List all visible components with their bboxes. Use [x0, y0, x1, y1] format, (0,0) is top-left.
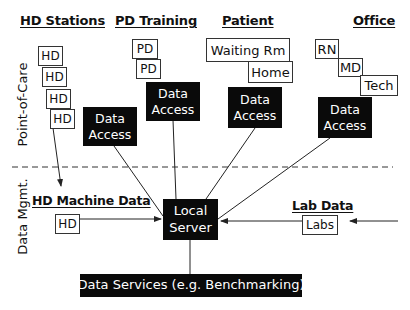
section-label-point-of-care: Point-of-Care [15, 60, 30, 150]
section-label-data-mgmt: Data Mgmt. [15, 178, 30, 256]
lab-data-title: Lab Data [292, 198, 353, 213]
header-pd-training: PD Training [115, 13, 197, 28]
data-access-pd[interactable]: Data Access [146, 82, 200, 121]
header-office: Office [353, 13, 395, 28]
header-patient: Patient [222, 13, 274, 28]
hd-machine-data-box[interactable]: HD [55, 214, 80, 234]
office-tech-box[interactable]: Tech [360, 75, 398, 96]
office-rn-box[interactable]: RN [315, 39, 339, 59]
data-access-office[interactable]: Data Access [318, 97, 372, 138]
data-access-hd[interactable]: Data Access [83, 107, 137, 146]
data-services-box[interactable]: Data Services (e.g. Benchmarking) [80, 274, 302, 297]
local-server-box[interactable]: Local Server [163, 199, 218, 240]
pd-training-box[interactable]: PD [132, 39, 158, 59]
header-hd-stations: HD Stations [20, 13, 105, 28]
hd-station-box[interactable]: HD [46, 89, 71, 109]
pd-training-box[interactable]: PD [136, 59, 161, 79]
data-access-patient[interactable]: Data Access [228, 87, 282, 128]
hd-station-box[interactable]: HD [38, 46, 63, 66]
patient-waiting-room-box[interactable]: Waiting Rm [206, 38, 290, 62]
hd-station-box[interactable]: HD [42, 67, 67, 87]
hd-station-box[interactable]: HD [50, 109, 75, 129]
labs-box[interactable]: Labs [302, 215, 338, 235]
hd-machine-data-title: HD Machine Data [32, 193, 151, 208]
patient-home-box[interactable]: Home [248, 61, 293, 83]
